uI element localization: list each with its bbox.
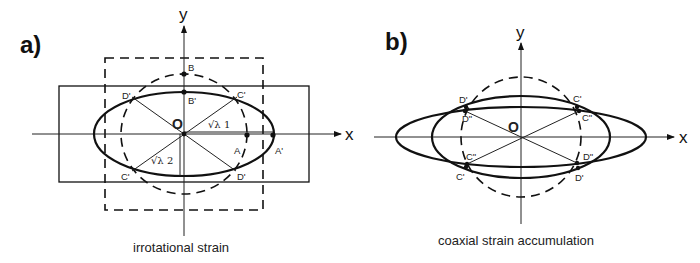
point-c-prime-lower <box>464 165 468 169</box>
panel-a-label: a) <box>20 31 41 58</box>
label-c-prime-lower-b: C' <box>456 171 465 182</box>
x-axis-label: x <box>345 125 354 144</box>
point-d-dprime-lower <box>575 161 579 165</box>
label-d-dprime-lower-b: D" <box>583 151 593 162</box>
point-d-prime-upper <box>464 105 468 109</box>
sqrt-lambda2-label: √λ 2 <box>151 155 173 166</box>
point-b <box>181 71 186 76</box>
label-d-prime-upper-b: D' <box>459 94 468 105</box>
x-axis-label-b: x <box>679 128 688 147</box>
panel-a: a) x y B B' A A' D' C' C' D' <box>20 5 354 255</box>
sqrt-lambda1-label: √λ 1 <box>208 119 230 130</box>
point-d-prime-lower <box>576 166 580 170</box>
label-c-prime-lower: C' <box>121 171 130 182</box>
strain-diagram: a) x y B B' A A' D' C' C' D' <box>0 0 700 263</box>
y-axis-label-b: y <box>516 23 525 42</box>
point-c-prime-upper <box>575 105 579 109</box>
caption-a: irrotational strain <box>133 240 229 255</box>
y-axis-label: y <box>179 5 188 24</box>
label-d-prime-lower-b: D' <box>575 172 584 183</box>
point-a <box>244 132 249 137</box>
label-b-prime: B' <box>188 95 196 106</box>
origin-label-b: O <box>508 119 519 135</box>
point-b-prime <box>181 89 186 94</box>
label-d-prime-upper: D' <box>122 90 131 101</box>
panel-b: b) x y D' D" C' C" C" C' D" D' O coa <box>374 23 688 248</box>
label-c-dprime-lower-b: C" <box>466 151 476 162</box>
caption-b: coaxial strain accumulation <box>438 233 594 248</box>
label-a: A <box>234 145 241 156</box>
label-c-dprime-upper-b: C" <box>582 112 592 123</box>
label-d-prime-lower: D' <box>237 171 246 182</box>
label-a-prime: A' <box>275 145 283 156</box>
origin-point <box>182 132 187 137</box>
label-d-dprime-upper-b: D" <box>462 113 472 124</box>
panel-b-label: b) <box>385 28 408 55</box>
origin-label-a: O <box>172 116 183 132</box>
label-c-prime-upper-b: C' <box>573 93 582 104</box>
point-c-dprime-upper <box>577 109 581 113</box>
label-b: B <box>188 62 194 73</box>
point-a-prime <box>270 132 275 137</box>
label-c-prime-upper: C' <box>237 89 246 100</box>
